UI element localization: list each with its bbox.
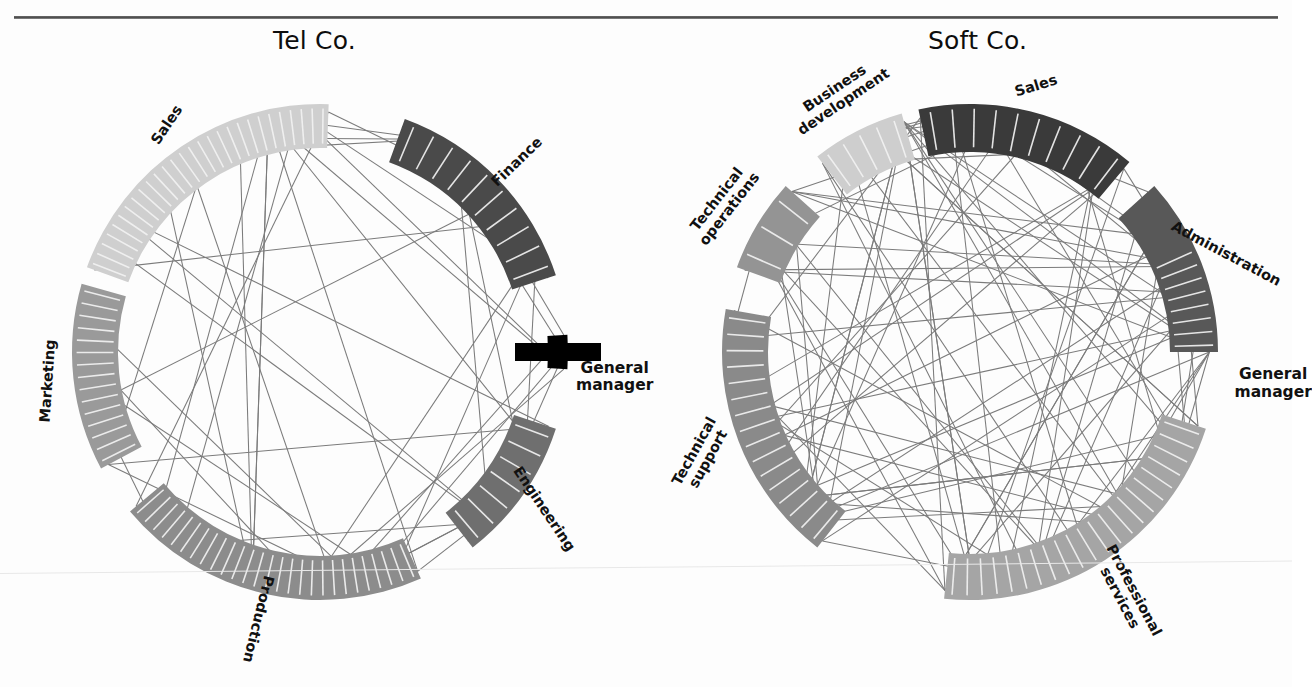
chart-title-tel-co: Tel Co. <box>273 26 356 55</box>
unit-segment-divider <box>217 131 232 163</box>
unit-segment-divider <box>727 365 764 367</box>
unit-arc-engineering[interactable] <box>446 415 556 547</box>
chord-line <box>731 242 757 339</box>
chord-line <box>951 113 1194 266</box>
chord-line <box>734 169 1123 397</box>
unit-segment-divider <box>145 497 170 522</box>
unit-segment-divider <box>1174 331 1212 334</box>
unit-segment-divider <box>107 234 138 251</box>
chord-line <box>136 112 328 506</box>
chord-line <box>951 113 1088 560</box>
unit-arc-administration[interactable] <box>1119 186 1218 352</box>
chord-line <box>782 500 1136 525</box>
chord-line <box>1113 215 1166 545</box>
unit-segment-divider <box>515 425 548 437</box>
unit-segment-divider <box>894 121 906 157</box>
unit-segment-divider <box>77 340 114 342</box>
unit-segment-divider <box>1161 265 1197 279</box>
unit-arc-marketing[interactable] <box>72 284 142 469</box>
unit-segment-divider <box>333 560 335 595</box>
unit-segment-divider <box>288 559 293 594</box>
unit-segment-divider <box>85 405 121 414</box>
chord-line <box>336 501 508 591</box>
unit-segment-divider <box>207 136 223 167</box>
chord-line <box>87 197 503 407</box>
chord-line <box>336 501 508 591</box>
unit-segment-divider <box>84 291 120 300</box>
unit-segment-divider <box>1094 159 1117 190</box>
unit-segment-divider <box>362 556 369 590</box>
unit-segment-divider <box>462 175 487 202</box>
chord-line <box>108 138 211 465</box>
unit-segment-divider <box>88 415 123 426</box>
unit-segment-divider <box>1171 304 1209 312</box>
chord-line <box>162 171 253 582</box>
unit-segment-divider <box>171 160 193 188</box>
chord-line <box>252 118 268 583</box>
unit-segment-divider <box>1134 478 1163 500</box>
chord-lines <box>80 112 564 592</box>
unit-segment-divider <box>761 227 793 246</box>
unit-segment-divider <box>82 303 118 310</box>
unit-arc-professional-services[interactable] <box>944 414 1206 600</box>
chord-line <box>945 294 1202 590</box>
chord-line <box>782 323 1208 500</box>
unit-arc-technical-support[interactable] <box>722 309 846 547</box>
unit-segment-divider <box>1098 514 1121 543</box>
chord-line <box>982 113 1194 266</box>
general-manager-label-line2: manager <box>1235 383 1312 401</box>
chord-line <box>792 192 1210 352</box>
unit-segment-divider <box>729 318 765 323</box>
chord-line <box>951 113 1148 191</box>
chord-line <box>94 222 521 270</box>
unit-arc-technical-operations[interactable] <box>737 186 820 283</box>
chord-line <box>1061 352 1209 574</box>
unit-segment-divider <box>352 558 357 593</box>
unit-arc-sales[interactable] <box>918 104 1129 199</box>
chord-line <box>782 454 1187 501</box>
unit-segment-divider <box>1175 345 1213 346</box>
chord-line <box>875 132 1198 426</box>
unit-segment-divider <box>416 137 433 170</box>
unit-arc-business-development[interactable] <box>817 114 915 195</box>
chord-line <box>239 126 252 583</box>
chord-line <box>801 504 1156 522</box>
chord-line <box>848 146 1136 525</box>
unit-label-sales: Sales <box>148 102 185 147</box>
chord-line <box>177 113 298 545</box>
unit-segment-divider <box>79 315 115 321</box>
chord-line <box>765 116 1013 476</box>
unit-segment-divider <box>97 435 131 450</box>
unit-segment-divider <box>475 191 503 215</box>
chord-line <box>801 266 1194 522</box>
unit-segment-divider <box>312 109 313 144</box>
unit-segment-divider <box>877 127 892 162</box>
chord-line <box>822 122 904 541</box>
unit-segment-divider <box>200 533 217 564</box>
unit-segment-divider <box>391 548 403 581</box>
chord-line <box>734 310 1136 525</box>
chord-line <box>108 426 548 464</box>
chord-line <box>212 138 431 140</box>
unit-segment-divider <box>448 161 471 190</box>
unit-label-business-development: Businessdevelopment <box>786 52 893 139</box>
unit-segment-divider <box>860 135 877 169</box>
unit-segment-divider <box>279 112 285 147</box>
chord-line <box>801 426 1198 522</box>
chord-line <box>757 242 945 590</box>
unit-segment-divider <box>828 155 850 186</box>
unit-segment-divider <box>801 501 826 528</box>
unit-segment-divider <box>1165 278 1202 290</box>
chord-line <box>1088 352 1209 561</box>
unit-segment-divider <box>277 557 283 592</box>
chord-line <box>741 169 1123 425</box>
unit-segment-divider <box>1173 318 1211 323</box>
general-manager-label-line1: General <box>1239 365 1307 383</box>
chord-line <box>122 126 240 217</box>
unit-arc-sales[interactable] <box>87 104 329 282</box>
unit-label-engineering: Engineering <box>511 464 579 554</box>
chord-line <box>773 216 823 541</box>
unit-segment-divider <box>506 246 539 262</box>
unit-segment-divider <box>372 554 381 588</box>
